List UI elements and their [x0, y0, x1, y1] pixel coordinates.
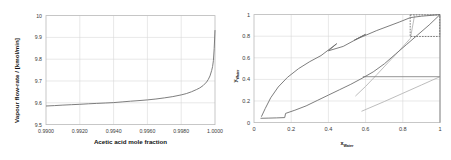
left-y-tick-label: 9.9 [35, 34, 42, 40]
left-x-tick-label: 0.9980 [173, 128, 189, 134]
right-x-axis-subscript: Water [344, 144, 354, 148]
left-horizontal-gridlines [46, 37, 215, 102]
right-x-tick-label: 0.8 [399, 126, 407, 132]
right-y-tick-label: 0.2 [242, 98, 250, 104]
left-chart-svg: Vapour flow-rate / [kmol/min] 10 9.9 9.8… [0, 0, 226, 160]
svg-text:yWater: yWater [232, 69, 240, 82]
right-x-tick-label: 1 [438, 126, 441, 132]
left-x-tick-labels: 0.9900 0.9920 0.9940 0.9960 0.9980 1.000… [38, 128, 223, 134]
left-y-axis-title: Vapour flow-rate / [kmol/min] [13, 38, 20, 123]
left-y-tick-label: 9.8 [35, 56, 42, 62]
right-vertical-gridlines [291, 15, 403, 123]
left-y-tick-label: 10 [36, 13, 42, 19]
left-vertical-gridlines [80, 16, 181, 125]
right-x-axis-title: xWater [341, 140, 354, 148]
right-series-equilibrium-curve [261, 15, 440, 117]
right-y-tick-label: 0 [247, 120, 250, 126]
left-y-tick-label: 9.6 [35, 100, 42, 106]
right-y-axis-subscript: Water [236, 69, 240, 79]
right-x-tick-label: 0.2 [287, 126, 295, 132]
right-series-operating-line-lower [261, 15, 441, 119]
left-x-tick-label: 0.9920 [72, 128, 88, 134]
left-x-axis-title: Acetic acid mole fraction [94, 138, 167, 145]
right-series-zoom-box-dashed [410, 15, 440, 37]
right-x-tick-labels: 0 0.2 0.4 0.6 0.8 1 [252, 126, 441, 132]
right-y-tick-label: 0.6 [242, 55, 250, 61]
right-y-axis-title: yWater [232, 69, 240, 82]
chart-panel-left: Vapour flow-rate / [kmol/min] 10 9.9 9.8… [0, 0, 226, 160]
right-y-tick-label: 0.8 [242, 33, 250, 39]
right-y-tick-label: 0.4 [242, 76, 250, 82]
right-x-tick-label: 0 [252, 126, 255, 132]
right-series-light-diagonal-line [362, 77, 441, 112]
right-horizontal-gridlines [254, 36, 440, 101]
right-y-tick-labels: 1 0.8 0.6 0.4 0.2 0 [242, 12, 250, 126]
right-chart-svg: yWater 1 0.8 0.6 0.4 0.2 0 [226, 0, 451, 160]
left-plot-frame [46, 16, 215, 125]
left-x-tick-label: 1.0000 [207, 128, 223, 134]
left-x-tick-label: 0.9900 [38, 128, 54, 134]
left-y-tick-labels: 10 9.9 9.8 9.7 9.6 9.5 [35, 13, 42, 128]
left-series-vapour-flow-rate [46, 30, 215, 106]
right-x-tick-label: 0.6 [362, 126, 370, 132]
left-x-tick-label: 0.9960 [139, 128, 155, 134]
left-y-tick-label: 9.7 [35, 78, 42, 84]
dual-chart-figure: Vapour flow-rate / [kmol/min] 10 9.9 9.8… [0, 0, 451, 160]
chart-panel-right: yWater 1 0.8 0.6 0.4 0.2 0 [226, 0, 451, 160]
right-x-tick-label: 0.4 [325, 126, 333, 132]
right-y-tick-label: 1 [247, 12, 250, 18]
left-x-tick-label: 0.9940 [106, 128, 122, 134]
